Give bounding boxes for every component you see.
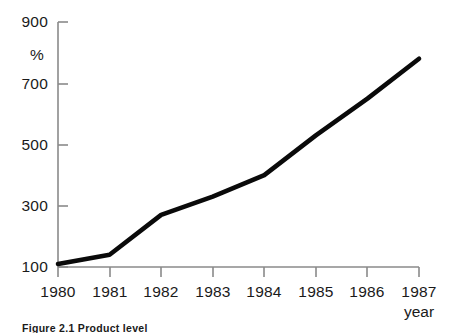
x-axis-label-1985: 1985 (291, 283, 341, 301)
x-axis-label-1980: 1980 (33, 283, 83, 301)
figure-caption: Figure 2.1 Product level (22, 322, 148, 333)
y-axis-label-300: 300 (4, 197, 48, 215)
x-axis-title: year (404, 303, 434, 321)
figure-caption-label: Figure 2.1 (22, 322, 75, 333)
y-axis-label-900: 900 (4, 13, 48, 31)
x-axis-label-1982: 1982 (136, 283, 186, 301)
figure-container: 900 700 500 300 100 % 1980 1981 1982 198… (0, 0, 451, 333)
x-axis-label-1987: 1987 (394, 283, 444, 301)
y-axis-unit-label: % (30, 46, 44, 64)
x-axis-label-1986: 1986 (342, 283, 392, 301)
data-series-line (58, 59, 419, 264)
x-axis-label-1981: 1981 (85, 283, 135, 301)
y-axis-label-700: 700 (4, 75, 48, 93)
figure-caption-text: Product level (78, 322, 148, 333)
x-axis-label-1984: 1984 (239, 283, 289, 301)
y-axis-label-500: 500 (4, 136, 48, 154)
x-axis-label-1983: 1983 (188, 283, 238, 301)
y-axis-label-100: 100 (4, 258, 48, 276)
